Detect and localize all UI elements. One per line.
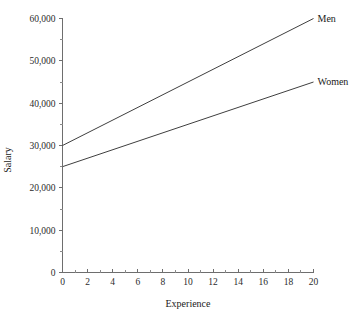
x-tick-label: 6 — [135, 277, 140, 287]
x-tick-label: 8 — [161, 277, 166, 287]
x-tick-label: 12 — [208, 277, 218, 287]
chart-canvas: 010,00020,00030,00040,00050,00060,000 02… — [0, 0, 354, 322]
series-label-women: Women — [318, 76, 349, 87]
x-tick-label: 2 — [85, 277, 90, 287]
salary-experience-line-chart: 010,00020,00030,00040,00050,00060,000 02… — [0, 0, 354, 322]
y-tick-label: 10,000 — [29, 226, 55, 236]
x-tick-label: 16 — [259, 277, 269, 287]
x-tick-label: 14 — [233, 277, 243, 287]
y-tick-label: 0 — [51, 268, 56, 278]
x-axis: 02468101214161820 — [60, 269, 318, 287]
y-tick-label: 30,000 — [29, 141, 55, 151]
x-tick-label: 20 — [309, 277, 319, 287]
series-end-labels: MenWomen — [318, 13, 349, 88]
x-tick-label: 0 — [60, 277, 65, 287]
y-tick-label: 20,000 — [29, 183, 55, 193]
y-axis-tick-labels: 010,00020,00030,00040,00050,00060,000 — [29, 14, 55, 278]
y-axis: 010,00020,00030,00040,00050,00060,000 — [29, 14, 62, 278]
series-line-women — [63, 82, 314, 167]
x-tick-label: 10 — [183, 277, 193, 287]
y-tick-label: 50,000 — [29, 56, 55, 66]
y-tick-label: 60,000 — [29, 14, 55, 24]
series-line-men — [63, 19, 314, 146]
data-series-lines — [63, 19, 314, 167]
y-tick-label: 40,000 — [29, 99, 55, 109]
x-axis-tick-labels: 02468101214161820 — [60, 277, 318, 287]
x-tick-label: 18 — [284, 277, 294, 287]
x-axis-title: Experience — [166, 298, 212, 309]
series-label-men: Men — [318, 13, 336, 24]
y-axis-major-ticks — [59, 19, 63, 273]
x-tick-label: 4 — [110, 277, 115, 287]
y-axis-title: Salary — [2, 147, 13, 173]
